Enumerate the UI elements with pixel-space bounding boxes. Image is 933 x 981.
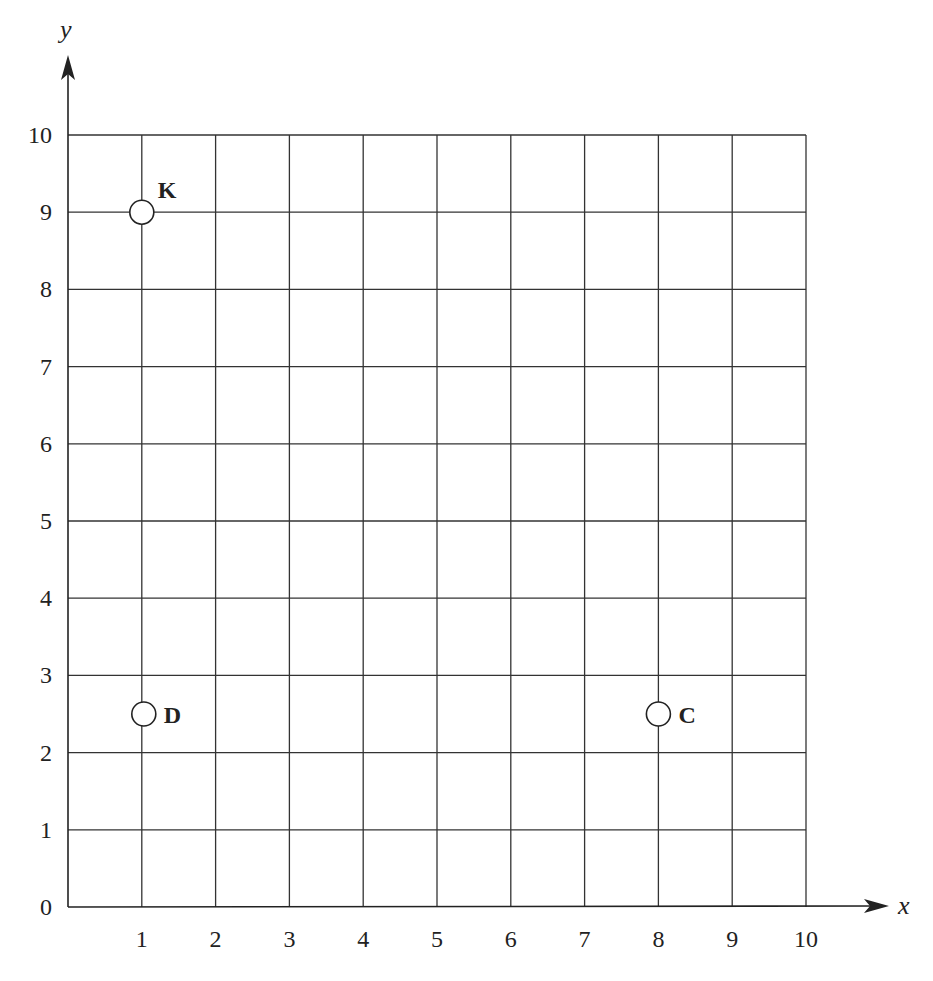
x-tick-label: 9: [726, 926, 738, 952]
point-marker-c: [646, 702, 670, 726]
y-tick-label: 3: [40, 662, 52, 688]
y-tick-label: 0: [40, 894, 52, 920]
x-tick-label: 1: [136, 926, 148, 952]
point-label-d: D: [164, 702, 181, 728]
x-tick-label: 5: [431, 926, 443, 952]
x-tick-label: 2: [210, 926, 222, 952]
x-tick-label: 3: [283, 926, 295, 952]
x-tick-label: 6: [505, 926, 517, 952]
x-axis-label: x: [897, 891, 910, 920]
point-marker-k: [130, 200, 154, 224]
y-tick-label: 9: [40, 199, 52, 225]
point-marker-d: [132, 702, 156, 726]
y-axis-label: y: [57, 15, 72, 44]
y-tick-label: 6: [40, 431, 52, 457]
point-label-c: C: [678, 702, 695, 728]
x-tick-label: 4: [357, 926, 369, 952]
x-tick-labels: 12345678910: [136, 926, 818, 952]
y-tick-label: 2: [40, 740, 52, 766]
x-axis: [68, 906, 872, 907]
y-tick-label: 4: [40, 585, 52, 611]
grid-lines: [68, 135, 806, 907]
data-points: KDC: [130, 177, 696, 728]
y-tick-label: 8: [40, 276, 52, 302]
x-tick-label: 10: [794, 926, 818, 952]
y-tick-label: 5: [40, 508, 52, 534]
axes: y x: [57, 15, 910, 920]
x-tick-label: 7: [579, 926, 591, 952]
y-tick-label: 7: [40, 354, 52, 380]
y-tick-labels: 012345678910: [28, 122, 52, 920]
x-tick-label: 8: [652, 926, 664, 952]
y-tick-label: 1: [40, 817, 52, 843]
point-label-k: K: [158, 177, 177, 203]
coordinate-grid-chart: y x 12345678910 012345678910 KDC: [0, 0, 933, 981]
y-tick-label: 10: [28, 122, 52, 148]
